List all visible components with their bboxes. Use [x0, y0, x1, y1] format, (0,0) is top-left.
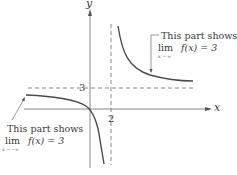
right-annotation-subscript: x → ∞	[158, 55, 171, 60]
left-annotation-line1: This part shows	[7, 124, 83, 134]
right-leader-arrow-icon	[150, 69, 153, 73]
left-annotation-lim: lim	[5, 136, 20, 146]
tick-label-2: 2	[108, 114, 114, 124]
y-axis-arrow-icon	[88, 9, 92, 16]
y-axis-label: y	[86, 0, 92, 9]
right-annotation-line1: This part shows	[161, 31, 237, 41]
left-leader-arrow-icon	[22, 97, 26, 102]
x-axis-label: x	[214, 102, 220, 113]
graph-canvas	[0, 0, 237, 175]
x-axis-arrow-icon	[205, 107, 212, 111]
left-annotation-leader	[12, 99, 24, 120]
tick-label-3: 3	[79, 83, 85, 93]
right-annotation-lim: lim	[158, 43, 173, 53]
left-annotation-subscript: x → −∞	[2, 148, 19, 153]
left-annotation-expr: f(x) = 3	[28, 136, 64, 146]
right-annotation-expr: f(x) = 3	[181, 43, 217, 53]
